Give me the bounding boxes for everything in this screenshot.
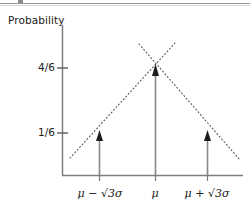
y-axis-title: Probability — [8, 15, 65, 26]
x-tick-label-mu-plus: μ + √3σ — [167, 188, 247, 199]
y-tick-label-4-6: 4/6 — [29, 62, 55, 73]
arrow-head-right — [204, 130, 211, 141]
arrow-head-left — [96, 130, 103, 141]
plot-canvas — [0, 0, 250, 209]
y-tick-label-1-6: 1/6 — [29, 127, 55, 138]
x-tick-label-mu-minus: μ − √3σ — [61, 188, 139, 199]
falling-dotted-line — [139, 44, 240, 160]
rising-dotted-line — [70, 43, 175, 158]
probability-figure: Probability 4/6 1/6 μ − √3σ μ μ + √3σ — [0, 0, 250, 209]
